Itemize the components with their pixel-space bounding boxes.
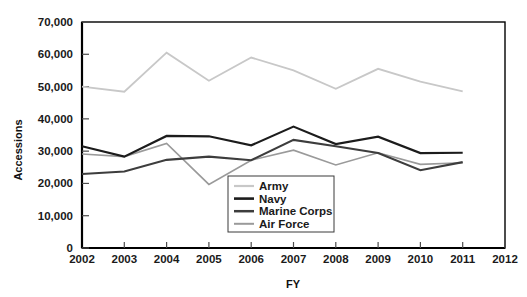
y-axis-title: Accessions [12, 119, 24, 180]
y-tick-label: 40,000 [38, 113, 73, 125]
series-line-marine-corps [82, 140, 463, 174]
y-tick-label: 60,000 [38, 48, 73, 60]
y-tick-label: 70,000 [38, 16, 73, 28]
x-tick-label: 2004 [154, 253, 180, 265]
x-tick-label: 2005 [196, 253, 222, 265]
y-tick-label: 20,000 [38, 177, 73, 189]
x-tick-label: 2009 [365, 253, 391, 265]
legend-label-army: Army [259, 180, 289, 192]
x-axis-title: FY [286, 278, 301, 290]
legend-label-marine-corps: Marine Corps [259, 205, 333, 217]
y-tick-label: 50,000 [38, 81, 73, 93]
x-tick-label: 2007 [281, 253, 307, 265]
x-tick-label: 2012 [492, 253, 518, 265]
y-tick-label: 30,000 [38, 145, 73, 157]
series-line-army [82, 53, 463, 92]
data-series-group [82, 53, 463, 185]
x-tick-label: 2002 [69, 253, 95, 265]
legend-label-air-force: Air Force [259, 218, 310, 230]
x-tick-label: 2008 [323, 253, 349, 265]
accessions-line-chart: 010,00020,00030,00040,00050,00060,00070,… [0, 0, 527, 297]
x-tick-label: 2010 [408, 253, 434, 265]
x-tick-label: 2006 [238, 253, 264, 265]
x-axis-ticks: 2002200320042005200620072008200920102011… [69, 242, 518, 265]
x-tick-label: 2011 [450, 253, 476, 265]
chart-canvas: 010,00020,00030,00040,00050,00060,00070,… [0, 0, 527, 297]
y-tick-label: 10,000 [38, 210, 73, 222]
chart-legend: ArmyNavyMarine CorpsAir Force [228, 176, 334, 232]
x-tick-label: 2003 [112, 253, 138, 265]
legend-label-navy: Navy [259, 193, 287, 205]
